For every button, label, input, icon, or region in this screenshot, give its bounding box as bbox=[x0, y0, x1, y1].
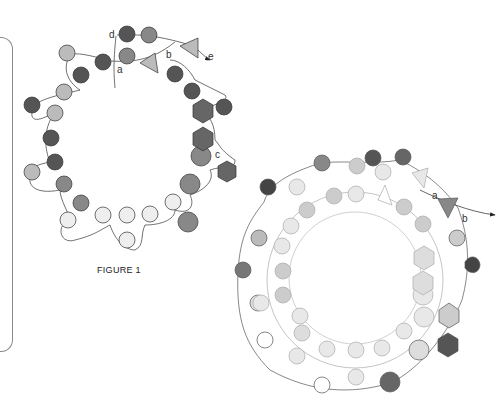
label-c: c bbox=[215, 149, 220, 160]
medium-beads bbox=[56, 27, 211, 232]
label-e: e bbox=[208, 51, 214, 62]
label-a: a bbox=[117, 64, 123, 75]
label-b-fig2: b bbox=[462, 213, 468, 224]
label-b: b bbox=[166, 49, 172, 60]
figure-1-caption: FIGURE 1 bbox=[97, 265, 141, 275]
figure-2-diagram bbox=[235, 149, 495, 393]
label-d: d bbox=[109, 29, 115, 40]
beading-diagrams: d a b e c bbox=[0, 0, 500, 407]
label-a-fig2: a bbox=[432, 190, 438, 201]
figure-1-diagram bbox=[24, 26, 236, 250]
